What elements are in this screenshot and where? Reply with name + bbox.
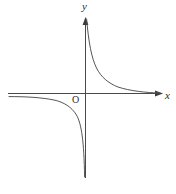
coordinate-plane-svg [0,0,176,194]
hyperbola-branch-quadrant-3 [9,97,85,177]
hyperbola-branch-quadrant-1 [87,19,160,93]
y-axis-label: y [82,1,87,12]
x-axis-label: x [165,90,170,101]
graph-figure: y x O [0,0,176,194]
origin-label: O [72,95,79,105]
